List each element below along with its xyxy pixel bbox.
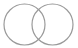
venn-diagram <box>0 0 78 48</box>
venn-circle-left <box>4 4 45 45</box>
venn-circle-right <box>32 4 73 45</box>
